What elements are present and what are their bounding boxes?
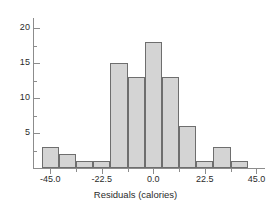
x-tick-label: 0.0 bbox=[147, 174, 160, 184]
histogram-bar bbox=[162, 77, 179, 168]
histogram-bar bbox=[213, 147, 230, 168]
histogram-bar bbox=[110, 63, 127, 168]
x-tick-minor bbox=[231, 168, 232, 172]
y-tick-label: 5 bbox=[8, 127, 30, 137]
histogram-bar bbox=[231, 161, 248, 168]
x-tick-label: 22.5 bbox=[196, 174, 214, 184]
x-tick-label: -22.5 bbox=[91, 174, 112, 184]
histogram-figure: 5101520 -45.0-22.50.022.545.0 Residuals … bbox=[0, 0, 271, 213]
histogram-bar bbox=[145, 42, 162, 168]
histogram-bar bbox=[196, 161, 213, 168]
histogram-bar bbox=[179, 126, 196, 168]
histogram-bars bbox=[33, 18, 265, 168]
x-axis-title: Residuals (calories) bbox=[0, 189, 271, 200]
histogram-bar bbox=[93, 161, 110, 168]
histogram-bar bbox=[128, 77, 145, 168]
x-tick-minor bbox=[179, 168, 180, 172]
histogram-bar bbox=[76, 161, 93, 168]
x-tick-minor bbox=[128, 168, 129, 172]
y-tick-label: 10 bbox=[8, 92, 30, 102]
x-tick-label: -45.0 bbox=[40, 174, 61, 184]
histogram-bar bbox=[59, 154, 76, 168]
histogram-bar bbox=[42, 147, 59, 168]
y-tick-label: 15 bbox=[8, 57, 30, 67]
x-tick-minor bbox=[76, 168, 77, 172]
y-tick-label: 20 bbox=[8, 22, 30, 32]
x-tick-label: 45.0 bbox=[248, 174, 266, 184]
